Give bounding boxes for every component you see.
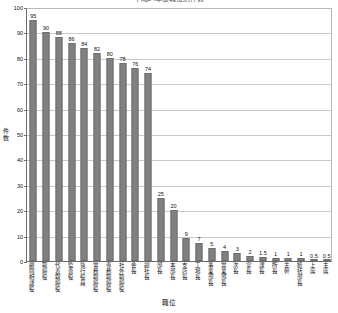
y-axis-tick-label: 50 [17, 132, 23, 138]
x-axis-label-char: 役 [28, 287, 36, 293]
bar-value-label: 88 [56, 30, 62, 36]
bar-value-label: 4 [223, 244, 226, 250]
x-axis-category-label: 上席 [309, 263, 317, 275]
x-axis-category-label: 執行役員 [79, 263, 87, 287]
bar-slot: 1 [295, 8, 308, 261]
bar-slot: 88 [53, 8, 66, 261]
bar-slot: 1 [282, 8, 295, 261]
x-axis-category-labels: 顧問相談役取締役代表取締役監査役執行役員常務取締役専務取締役社外取締役会長副社長… [26, 263, 332, 297]
bar[interactable] [81, 48, 88, 261]
x-axis-category-label: 専務取締役 [105, 263, 113, 293]
bar-value-label: 0.5 [323, 253, 331, 259]
bar-chart: 平成24年度職位別件数 件 数 0102030405060708090100 9… [0, 0, 338, 313]
bar-slot: 2 [244, 8, 257, 261]
bar[interactable] [208, 248, 215, 261]
bar[interactable] [272, 258, 279, 261]
bar[interactable] [132, 68, 139, 261]
bar[interactable] [298, 258, 305, 261]
bar-value-label: 84 [81, 41, 87, 47]
bar-slot: 86 [65, 8, 78, 261]
bar[interactable] [247, 256, 254, 261]
x-axis-label-char: 長 [220, 281, 228, 287]
x-axis-label-char: 長 [258, 269, 266, 275]
x-axis-category-label: 統括部長 [296, 263, 304, 287]
x-axis-category-label: 次長 [232, 263, 240, 275]
x-axis-label-char: 役 [118, 287, 126, 293]
bar[interactable] [310, 259, 317, 261]
x-axis-label-char: 役 [54, 287, 62, 293]
bar[interactable] [323, 259, 330, 261]
bar[interactable] [234, 253, 241, 261]
bar-slot: 80 [104, 8, 117, 261]
bar[interactable] [221, 251, 228, 261]
x-axis-category-label: 代表取締役 [54, 263, 62, 293]
bar-value-label: 9 [185, 231, 188, 237]
bar-value-label: 80 [107, 51, 113, 57]
y-axis-tick-label: 20 [17, 208, 23, 214]
bar[interactable] [55, 37, 62, 261]
bar[interactable] [259, 257, 266, 261]
x-axis-title: 職位 [0, 299, 338, 307]
bar[interactable] [106, 58, 113, 261]
bar-slot: 20 [167, 8, 180, 261]
bar-value-label: 90 [43, 25, 49, 31]
x-axis-label-char: 役 [105, 287, 113, 293]
x-axis-category-label: 所長 [271, 263, 279, 275]
x-axis-label-char: 長 [232, 269, 240, 275]
bar[interactable] [119, 63, 126, 261]
bar-slot: 95 [27, 8, 40, 261]
bar-slot: 0.5 [320, 8, 333, 261]
bar-value-label: 78 [120, 56, 126, 62]
x-axis-category-label: 本部長 [169, 263, 177, 281]
x-axis-label-char: 役 [41, 275, 49, 281]
plot-area: 9590888684828078767425209754321.51110.50… [26, 8, 332, 262]
x-axis-label-char: 長 [130, 269, 138, 275]
y-axis-tick-label: 60 [17, 107, 23, 113]
x-axis-label-char: 長 [143, 275, 151, 281]
y-axis-tick-label: 0 [20, 259, 23, 265]
bar[interactable] [157, 198, 164, 262]
x-axis-label-char: 役 [67, 275, 75, 281]
bar-value-label: 95 [30, 13, 36, 19]
bar[interactable] [170, 210, 177, 261]
bar-slot: 25 [155, 8, 168, 261]
y-axis-tick-label: 70 [17, 81, 23, 87]
bar-value-label: 20 [171, 203, 177, 209]
bar-value-label: 1 [287, 251, 290, 257]
y-axis-title-char-1: 件 [1, 128, 10, 135]
x-axis-label-char: 長 [245, 269, 253, 275]
x-axis-category-label: 工場長 [194, 263, 202, 281]
y-axis-tick-label: 100 [14, 5, 23, 11]
bar[interactable] [30, 20, 37, 261]
chart-title: 平成24年度職位別件数 [0, 0, 338, 3]
x-axis-label-char: 席 [309, 269, 317, 275]
bar-slot: 1 [269, 8, 282, 261]
bar[interactable] [196, 243, 203, 261]
bar[interactable] [183, 238, 190, 261]
x-axis-label-char: 長 [207, 281, 215, 287]
bar-value-label: 2 [249, 249, 252, 255]
x-axis-label-char: 長 [169, 275, 177, 281]
bar-slot: 3 [231, 8, 244, 261]
bar-value-label: 5 [210, 241, 213, 247]
bar[interactable] [145, 73, 152, 261]
bar[interactable] [285, 258, 292, 261]
bar-slot: 74 [142, 8, 155, 261]
y-axis-tick-label: 40 [17, 157, 23, 163]
bar-value-label: 76 [132, 61, 138, 67]
bar-value-label: 7 [198, 236, 201, 242]
bar[interactable] [94, 53, 101, 261]
bar-value-label: 74 [145, 66, 151, 72]
y-axis-tick-labels: 0102030405060708090100 [10, 8, 24, 262]
x-axis-category-label: 主席 [322, 263, 330, 275]
bar[interactable] [43, 32, 50, 261]
x-axis-category-label: 営業部長 [220, 263, 228, 287]
bar-value-label: 25 [158, 191, 164, 197]
bar[interactable] [68, 43, 75, 261]
x-axis-category-label: 取締役 [41, 263, 49, 281]
bar-slot: 4 [218, 8, 231, 261]
y-axis-title-char-2: 数 [1, 135, 10, 142]
y-axis-tick-label: 30 [17, 183, 23, 189]
x-axis-category-label: 課長 [258, 263, 266, 275]
bar-slot: 7 [193, 8, 206, 261]
